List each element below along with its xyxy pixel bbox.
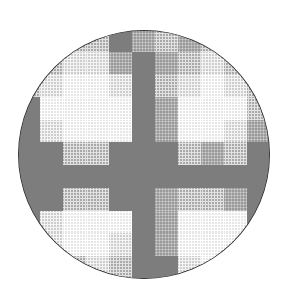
grid-cell [155,256,178,279]
pixel-grid [18,30,270,279]
grid-cell [132,74,155,97]
grid-cell [201,52,224,75]
grid-cell [155,142,178,165]
grid-cell [201,74,224,97]
grid-cell [40,97,63,120]
grid-cell [224,120,247,143]
grid-cell [132,97,155,120]
grid-cell [86,97,109,120]
grid-cell [247,142,270,165]
grid-cell [247,211,270,234]
grid-cell [132,165,155,188]
grid-cell [178,211,201,234]
grid-cell [18,188,40,211]
grid-cell [178,52,201,75]
grid-cell [63,97,86,120]
grid-cell [178,97,201,120]
grid-cell [63,188,86,211]
grid-cell [155,120,178,143]
grid-cell [155,30,178,52]
grid-cell [18,165,40,188]
grid-cell [247,74,270,97]
grid-cell [155,74,178,97]
grid-cell [224,233,247,256]
grid-cell [178,256,201,279]
grid-cell [18,52,40,75]
grid-cell [201,233,224,256]
grid-cell [224,142,247,165]
grid-cell [224,30,247,52]
grid-cell [247,188,270,211]
grid-cell [224,97,247,120]
grid-cell [109,97,132,120]
grid-cell [18,233,40,256]
grid-cell [63,120,86,143]
grid-cell [86,30,109,52]
grid-cell [109,256,132,279]
grid-cell [63,211,86,234]
grid-cell [109,120,132,143]
grid-cell [40,142,63,165]
grid-cell [132,142,155,165]
grid-cell [132,233,155,256]
grid-cell [40,52,63,75]
grid-cell [40,74,63,97]
grid-cell [155,165,178,188]
grid-cell [109,233,132,256]
grid-cell [63,165,86,188]
grid-cell [224,256,247,279]
grid-cell [86,74,109,97]
grid-cell [109,30,132,52]
grid-cell [86,52,109,75]
grid-cell [247,97,270,120]
grid-cell [201,188,224,211]
grid-cell [178,120,201,143]
grid-cell [201,256,224,279]
grid-cell [132,211,155,234]
grid-cell [224,52,247,75]
grid-cell [132,52,155,75]
grid-cell [18,120,40,143]
grid-cell [247,165,270,188]
grid-cell [247,30,270,52]
grid-cell [109,211,132,234]
grid-cell [224,188,247,211]
grid-cell [63,52,86,75]
grid-cell [109,52,132,75]
grid-cell [109,74,132,97]
grid-cell [86,211,109,234]
grid-cell [178,74,201,97]
grid-cell [201,165,224,188]
grid-cell [63,233,86,256]
grid-cell [201,142,224,165]
grid-cell [109,165,132,188]
grid-cell [63,142,86,165]
grid-cell [40,211,63,234]
grid-cell [18,74,40,97]
grid-cell [178,188,201,211]
grid-cell [63,30,86,52]
grid-cell [247,233,270,256]
grid-cell [132,188,155,211]
grid-cell [201,97,224,120]
grid-cell [224,165,247,188]
grid-cell [18,30,40,52]
grid-cell [155,233,178,256]
grid-cell [224,74,247,97]
grid-cell [247,52,270,75]
grid-cell [86,188,109,211]
grid-cell [201,211,224,234]
grid-cell [178,30,201,52]
grid-cell [18,142,40,165]
grid-cell [178,233,201,256]
grid-cell [109,142,132,165]
grid-cell [155,97,178,120]
grid-cell [40,188,63,211]
grid-cell [40,256,63,279]
grid-cell [155,188,178,211]
grid-cell [86,165,109,188]
grid-cell [86,256,109,279]
grid-cell [201,30,224,52]
grid-cell [247,256,270,279]
grid-cell [40,120,63,143]
